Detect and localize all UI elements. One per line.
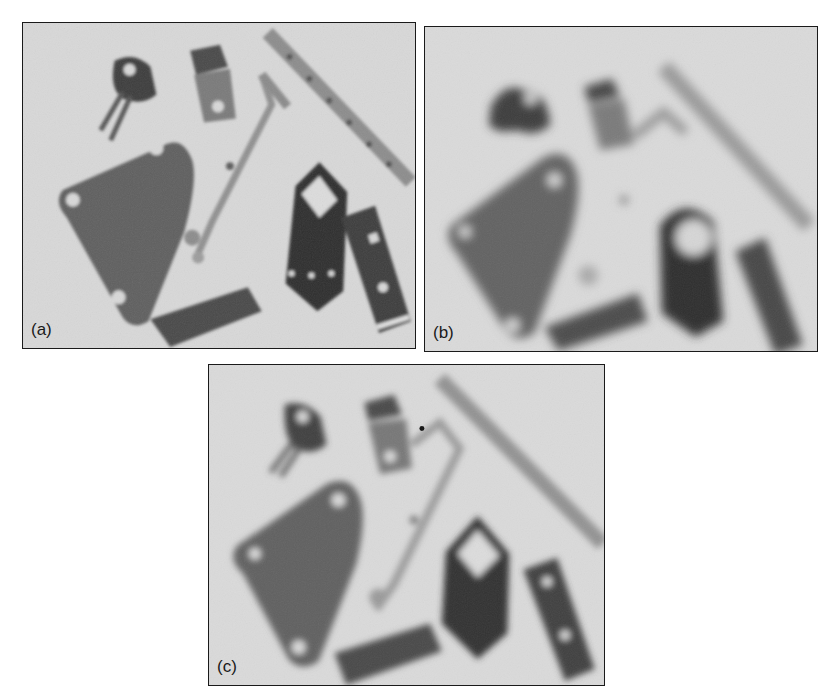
photo-parts-blurred — [425, 27, 817, 351]
photo-parts-sharp — [23, 23, 415, 348]
panel-label-b: (b) — [433, 323, 454, 343]
photo-parts-restored — [209, 365, 604, 685]
figure-panel-b: (b) — [424, 26, 818, 352]
figure-panel-a: (a) — [22, 22, 416, 349]
panel-label-c: (c) — [217, 657, 237, 677]
panel-label-a: (a) — [31, 320, 52, 340]
figure-panel-c: (c) — [208, 364, 605, 686]
